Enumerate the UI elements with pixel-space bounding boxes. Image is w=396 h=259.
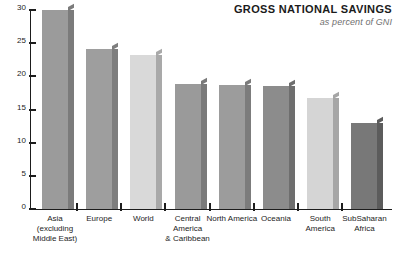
category-label: SubSaharan Africa (338, 214, 390, 234)
y-axis-tick-label: 25 (17, 36, 26, 45)
y-axis-tick: 15 (30, 109, 37, 111)
bar-side-face (377, 123, 383, 209)
y-axis-tick-mark (29, 109, 36, 111)
bar-front-face (42, 10, 68, 209)
bar-side-face (68, 10, 74, 209)
y-axis-tick-label: 10 (17, 136, 26, 145)
bar-front-face (175, 84, 201, 209)
bar-front-face (219, 85, 245, 209)
bar-front-face (130, 55, 156, 209)
y-axis-tick-mark (29, 175, 36, 177)
y-axis-tick-mark (29, 75, 36, 77)
bar-side-face (289, 86, 295, 209)
bar (130, 55, 156, 209)
y-axis-tick-mark (29, 9, 36, 11)
bar-front-face (86, 49, 112, 209)
y-axis-tick-mark (29, 42, 36, 44)
bar (219, 85, 245, 209)
bar-side-face (201, 84, 207, 209)
x-axis-tick-mark (164, 203, 166, 211)
y-axis-tick-mark (29, 142, 36, 144)
x-axis-tick-mark (253, 203, 255, 211)
y-axis-tick: 0 (30, 208, 37, 210)
bar-front-face (263, 86, 289, 209)
y-axis-tick-label: 5 (22, 169, 26, 178)
x-axis-tick-mark (297, 203, 299, 211)
bar-side-face (333, 98, 339, 209)
y-axis-tick: 10 (30, 142, 37, 144)
y-axis-tick-mark (29, 208, 36, 210)
gross-national-savings-chart: GROSS NATIONAL SAVINGS as percent of GNI… (0, 0, 396, 259)
x-axis-tick-mark (76, 203, 78, 211)
bar-side-face (112, 49, 118, 209)
y-axis-tick: 5 (30, 175, 37, 177)
y-axis-tick: 20 (30, 75, 37, 77)
bar (263, 86, 289, 209)
x-axis-line (30, 209, 392, 210)
x-axis-tick-mark (341, 203, 343, 211)
bar-side-face (156, 55, 162, 209)
bar (175, 84, 201, 209)
bar (42, 10, 68, 209)
x-axis-tick-mark (209, 203, 211, 211)
bar (86, 49, 112, 209)
y-axis-tick: 30 (30, 9, 37, 11)
y-axis-tick-label: 20 (17, 69, 26, 78)
plot-area: 051015202530 (30, 10, 392, 210)
bar-front-face (351, 123, 377, 209)
y-axis-tick: 25 (30, 42, 37, 44)
bar (351, 123, 377, 209)
bar-front-face (307, 98, 333, 209)
bar (307, 98, 333, 209)
y-axis-tick-label: 30 (17, 3, 26, 12)
y-axis-tick-label: 0 (22, 202, 26, 211)
x-axis-tick-mark (120, 203, 122, 211)
y-axis-tick-label: 15 (17, 103, 26, 112)
bar-side-face (245, 85, 251, 209)
